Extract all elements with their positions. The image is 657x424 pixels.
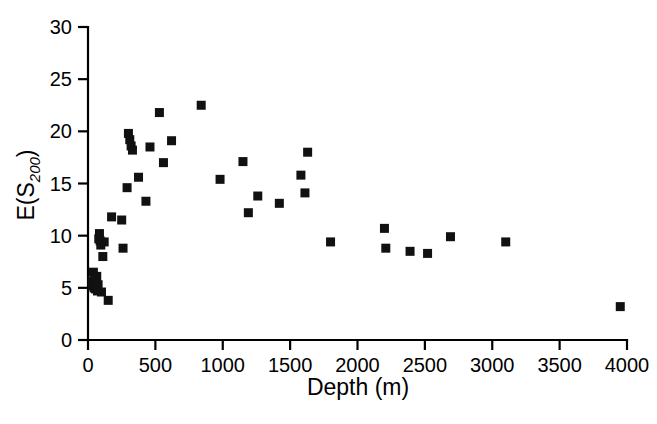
data-point bbox=[100, 237, 109, 246]
data-point bbox=[446, 232, 455, 241]
data-point bbox=[244, 208, 253, 217]
y-tick-label-0: 0 bbox=[61, 329, 72, 351]
data-point bbox=[380, 224, 389, 233]
data-point bbox=[134, 173, 143, 182]
data-point bbox=[501, 237, 510, 246]
data-point bbox=[123, 183, 132, 192]
data-point bbox=[197, 101, 206, 110]
data-point bbox=[381, 244, 390, 253]
data-point bbox=[155, 108, 164, 117]
x-tick-label-3500: 3500 bbox=[537, 354, 582, 376]
x-tick-label-0: 0 bbox=[82, 354, 93, 376]
y-axis-title-close: ) bbox=[13, 149, 39, 157]
x-tick-label-3000: 3000 bbox=[470, 354, 515, 376]
data-point bbox=[216, 175, 225, 184]
data-point bbox=[167, 136, 176, 145]
data-point bbox=[92, 272, 101, 281]
data-point bbox=[159, 158, 168, 167]
y-tick-label-20: 20 bbox=[50, 120, 72, 142]
data-point bbox=[119, 244, 128, 253]
y-tick-label-15: 15 bbox=[50, 173, 72, 195]
y-tick-label-5: 5 bbox=[61, 277, 72, 299]
x-tick-label-4000: 4000 bbox=[605, 354, 650, 376]
y-axis-title-subscript: 200 bbox=[26, 156, 43, 183]
y-tick-label-25: 25 bbox=[50, 68, 72, 90]
data-point bbox=[145, 142, 154, 151]
data-point bbox=[303, 148, 312, 157]
x-axis-title: Depth (m) bbox=[307, 374, 409, 400]
data-point bbox=[117, 216, 126, 225]
data-point bbox=[423, 249, 432, 258]
y-axis-title-base: E(S bbox=[13, 182, 39, 220]
data-point bbox=[406, 247, 415, 256]
x-tick-label-1000: 1000 bbox=[201, 354, 246, 376]
data-point bbox=[104, 296, 113, 305]
data-point bbox=[128, 146, 137, 155]
x-tick-label-500: 500 bbox=[139, 354, 172, 376]
data-point bbox=[326, 237, 335, 246]
data-point bbox=[616, 302, 625, 311]
data-point bbox=[141, 197, 150, 206]
x-axis-tick-labels: 05001000150020002500300035004000 bbox=[82, 354, 649, 376]
data-point bbox=[97, 288, 106, 297]
x-tick-label-2500: 2500 bbox=[403, 354, 448, 376]
y-tick-label-30: 30 bbox=[50, 16, 72, 38]
scatter-plot-figure: 051015202530 050010001500200025003000350… bbox=[0, 0, 657, 424]
data-point bbox=[253, 192, 262, 201]
data-point bbox=[300, 188, 309, 197]
data-point bbox=[296, 171, 305, 180]
data-point bbox=[107, 212, 116, 221]
data-point bbox=[238, 157, 247, 166]
y-tick-label-10: 10 bbox=[50, 225, 72, 247]
data-point bbox=[275, 199, 284, 208]
x-tick-label-2000: 2000 bbox=[335, 354, 380, 376]
data-point bbox=[98, 252, 107, 261]
x-tick-label-1500: 1500 bbox=[268, 354, 313, 376]
